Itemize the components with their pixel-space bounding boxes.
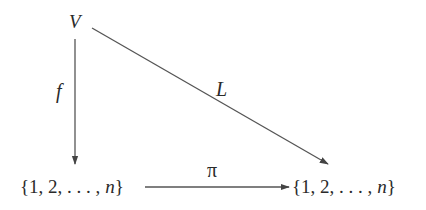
label-f: f bbox=[56, 81, 62, 101]
arrow-L bbox=[92, 28, 328, 164]
left-set-suffix: } bbox=[115, 176, 124, 197]
node-left-set: {1, 2, . . . , n} bbox=[20, 177, 124, 196]
right-set-var: n bbox=[377, 176, 387, 197]
left-set-var: n bbox=[105, 176, 115, 197]
node-V: V bbox=[69, 12, 81, 31]
commutative-diagram: V f L π {1, 2, . . . , n} {1, 2, . . . ,… bbox=[0, 0, 426, 210]
right-set-prefix: {1, 2, . . . , bbox=[292, 176, 377, 197]
node-right-set: {1, 2, . . . , n} bbox=[292, 177, 396, 196]
right-set-suffix: } bbox=[387, 176, 396, 197]
label-pi: π bbox=[207, 160, 217, 180]
left-set-prefix: {1, 2, . . . , bbox=[20, 176, 105, 197]
label-L: L bbox=[216, 79, 227, 99]
node-V-label: V bbox=[69, 11, 81, 32]
